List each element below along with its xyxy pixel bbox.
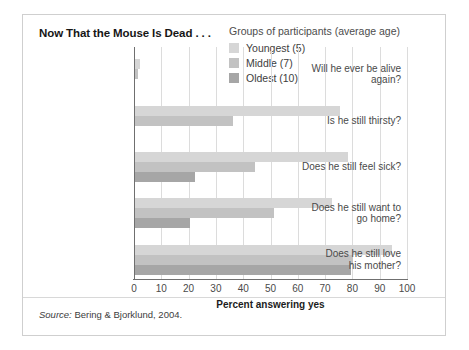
figure-panel: Now That the Mouse Is Dead . . . Groups …	[22, 14, 446, 336]
source-label: Source:	[39, 309, 72, 320]
gridline	[407, 47, 408, 279]
source-note: Source: Bering & Bjorklund, 2004.	[39, 309, 182, 320]
category-label-line: Will he ever be alive	[241, 63, 401, 75]
x-tick-label: 20	[174, 283, 204, 294]
category-label-line: go home?	[241, 213, 401, 225]
category-label-line: Does he still love	[241, 248, 401, 260]
category-label: Is he still thirsty?	[241, 115, 401, 127]
category-label: Does he still lovehis mother?	[241, 248, 401, 271]
bar	[135, 59, 140, 69]
bar	[135, 69, 138, 79]
bar	[135, 172, 195, 182]
bar	[135, 218, 190, 228]
category-label: Does he still want togo home?	[241, 202, 401, 225]
bar	[135, 116, 233, 126]
x-tick-label: 60	[283, 283, 313, 294]
category-label-line: Is he still thirsty?	[241, 115, 401, 127]
plot-area: Will he ever be aliveagain?Is he still t…	[134, 47, 407, 279]
legend-title: Groups of participants (average age)	[229, 25, 439, 37]
category-label: Will he ever be aliveagain?	[241, 63, 401, 86]
x-tick-label: 40	[228, 283, 258, 294]
category-label-line: again?	[241, 74, 401, 86]
x-axis-line	[133, 279, 408, 280]
x-tick-label: 80	[337, 283, 367, 294]
category-label-line: Does he still want to	[241, 202, 401, 214]
x-tick-label: 10	[146, 283, 176, 294]
x-tick-label: 90	[365, 283, 395, 294]
bar	[135, 162, 255, 172]
x-tick-label: 50	[256, 283, 286, 294]
x-tick-label: 100	[392, 283, 422, 294]
x-tick-label: 70	[310, 283, 340, 294]
source-text: Bering & Bjorklund, 2004.	[72, 309, 182, 320]
category-label: Does he still feel sick?	[241, 161, 401, 173]
footer-divider	[23, 297, 445, 298]
category-label-line: his mother?	[241, 260, 401, 272]
page-title: Now That the Mouse Is Dead . . .	[39, 27, 211, 39]
x-tick-label: 30	[201, 283, 231, 294]
category-label-line: Does he still feel sick?	[241, 161, 401, 173]
x-tick-label: 0	[119, 283, 149, 294]
